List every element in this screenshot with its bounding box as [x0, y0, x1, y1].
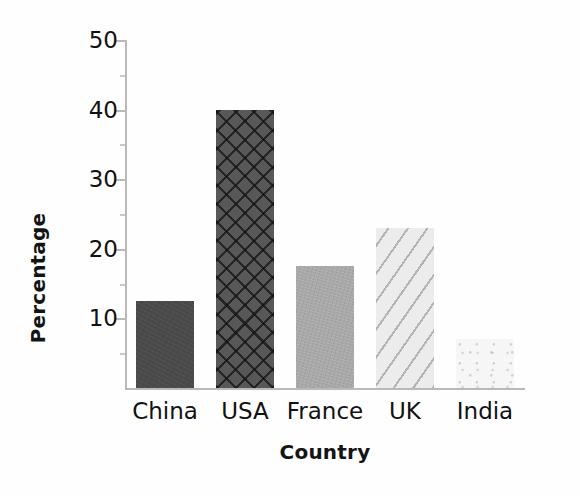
x-tick-label-uk: UK — [389, 400, 421, 423]
bar-india — [456, 339, 514, 388]
y-minor-tick-25 — [120, 214, 125, 216]
y-tick-label-10: 10 — [89, 307, 118, 330]
y-tick-label-30: 30 — [89, 168, 118, 191]
y-axis-title: Percentage — [0, 0, 60, 496]
y-axis-title-text: Percentage — [26, 213, 50, 344]
bar-chart: Percentage 10 20 30 40 50 — [0, 0, 580, 496]
y-axis-line — [125, 40, 127, 390]
bar-china — [136, 301, 194, 388]
y-tick-label-50: 50 — [89, 29, 118, 52]
x-tick-label-india: India — [457, 400, 513, 423]
y-minor-tick-5 — [120, 353, 125, 355]
y-minor-tick-15 — [120, 284, 125, 286]
x-tick-label-usa: USA — [221, 400, 269, 423]
x-axis-line — [125, 388, 525, 390]
x-tick-label-china: China — [132, 400, 198, 423]
x-axis-title: Country — [125, 440, 525, 464]
bar-uk — [376, 228, 434, 388]
y-minor-tick-45 — [120, 75, 125, 77]
y-minor-tick-35 — [120, 144, 125, 146]
y-tick-label-40: 40 — [89, 98, 118, 121]
y-tick-label-20: 20 — [89, 237, 118, 260]
x-tick-label-france: France — [287, 400, 363, 423]
bar-france — [296, 266, 354, 388]
plot-area: 10 20 30 40 50 China US — [125, 40, 525, 390]
bar-usa — [216, 110, 274, 388]
